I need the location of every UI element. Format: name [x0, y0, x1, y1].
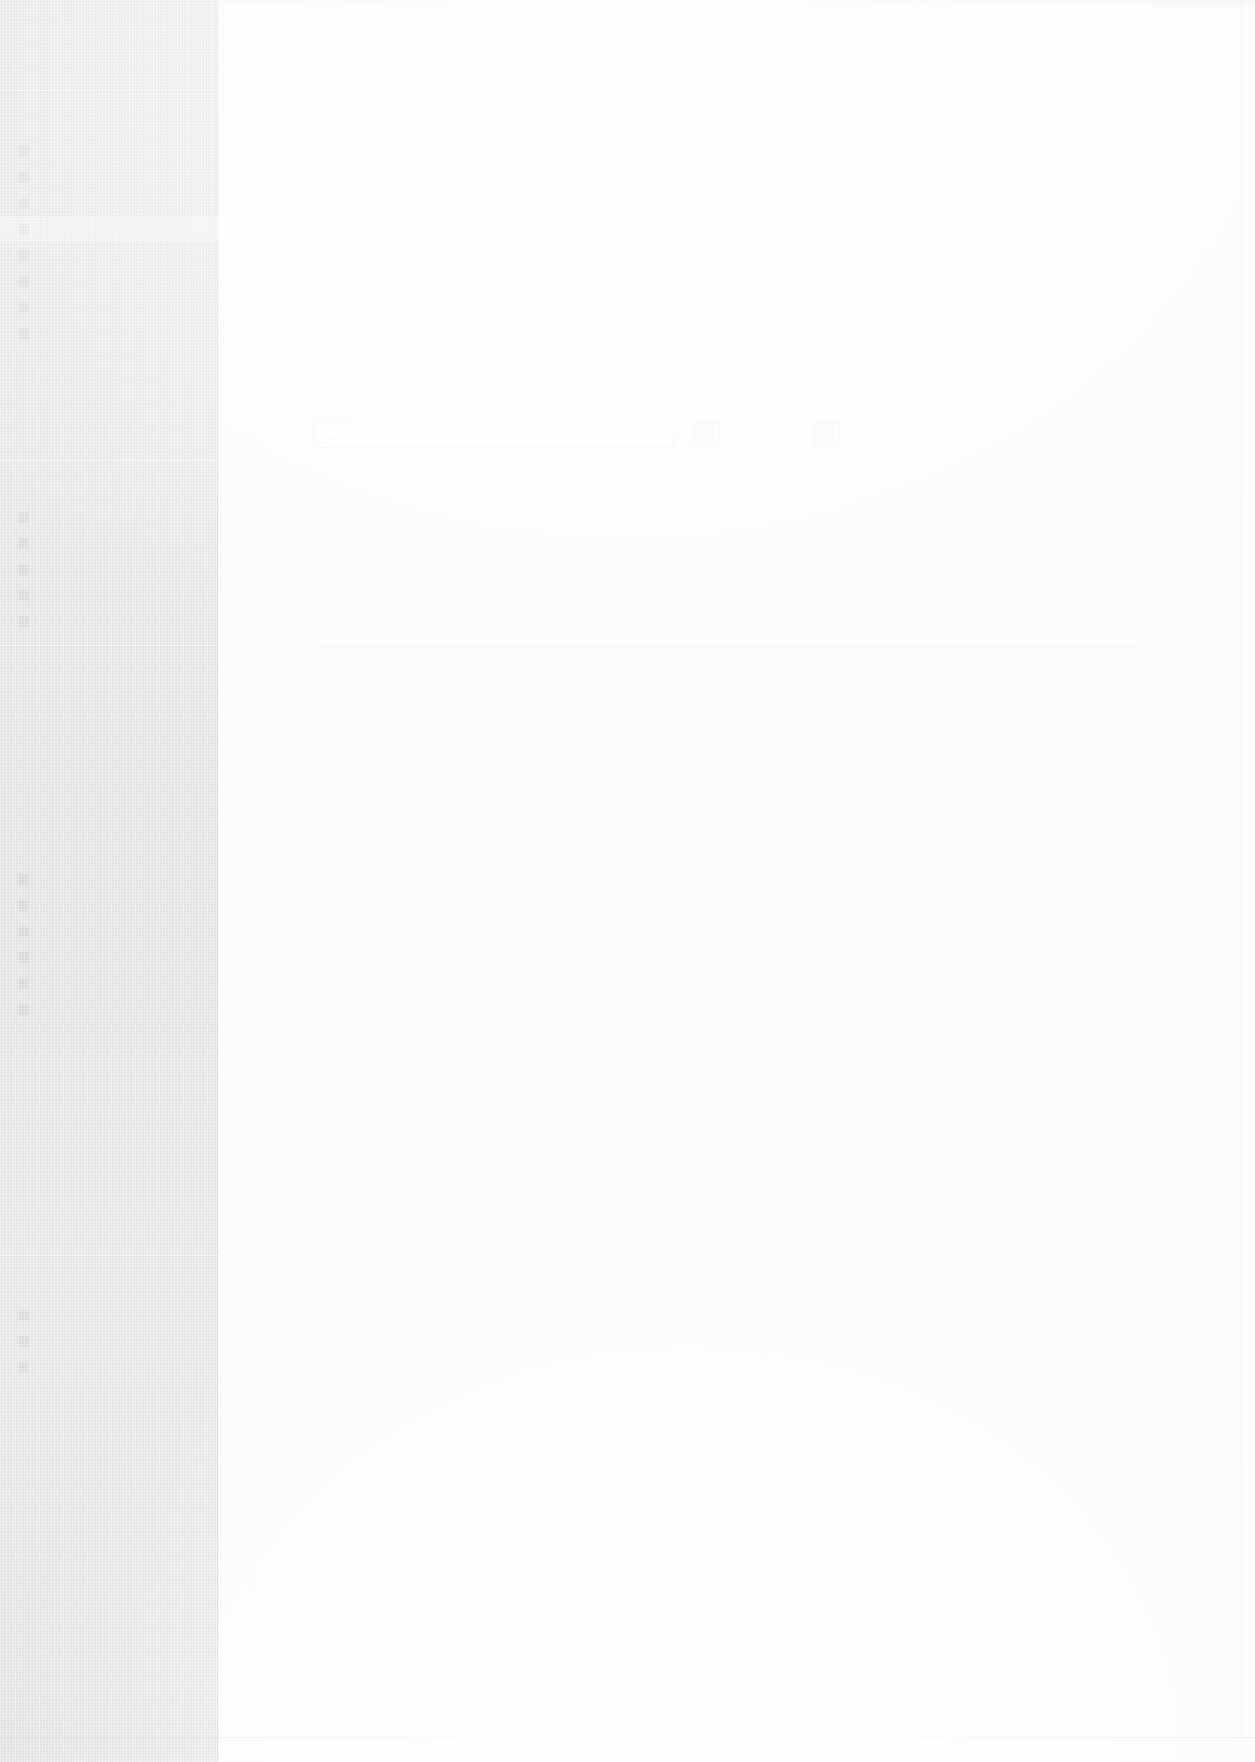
- secondary-action-button[interactable]: [814, 421, 840, 447]
- square-icon: [18, 198, 29, 209]
- sidebar: [0, 0, 218, 1762]
- sidebar-item-tertiary-4[interactable]: [0, 944, 218, 970]
- square-icon: [18, 276, 29, 287]
- table-row[interactable]: [314, 842, 1135, 868]
- section-divider: [314, 646, 1135, 647]
- square-icon: [18, 1336, 29, 1347]
- sidebar-item-primary-1[interactable]: [0, 138, 218, 164]
- square-icon: [18, 1362, 29, 1373]
- sidebar-item-tertiary-3[interactable]: [0, 918, 218, 944]
- sidebar-item-primary-3[interactable]: [0, 190, 218, 216]
- sidebar-item-primary-2[interactable]: [0, 164, 218, 190]
- square-icon: [18, 328, 29, 339]
- table-header-row: [314, 660, 1135, 686]
- square-icon: [18, 952, 29, 963]
- square-icon: [18, 874, 29, 885]
- sidebar-divider-2: [0, 460, 218, 461]
- table-row[interactable]: [314, 816, 1135, 842]
- sidebar-section-secondary: [0, 478, 218, 634]
- page-edge-right: [1241, 0, 1242, 1740]
- sidebar-item-tertiary-2[interactable]: [0, 892, 218, 918]
- square-icon: [18, 926, 29, 937]
- sidebar-section-header-tertiary: [0, 840, 218, 866]
- primary-action-button[interactable]: [694, 421, 720, 447]
- sidebar-item-secondary-2[interactable]: [0, 530, 218, 556]
- sidebar-item-primary-5[interactable]: [0, 242, 218, 268]
- table-row[interactable]: [314, 868, 1135, 894]
- sidebar-item-footer-1[interactable]: [0, 1302, 218, 1328]
- square-icon: [18, 538, 29, 549]
- sidebar-item-footer-3[interactable]: [0, 1354, 218, 1380]
- sidebar-item-secondary-5[interactable]: [0, 608, 218, 634]
- square-icon: [18, 564, 29, 575]
- square-icon: [18, 172, 29, 183]
- main-content: [218, 0, 1255, 1762]
- square-icon: [18, 512, 29, 523]
- square-icon: [18, 146, 29, 157]
- application-window: [0, 0, 1255, 1762]
- sidebar-section-header-primary: [0, 112, 218, 138]
- sidebar-section-primary: [0, 112, 218, 346]
- sidebar-section-header-secondary: [0, 478, 218, 504]
- data-table: [314, 660, 1135, 894]
- square-icon: [18, 302, 29, 313]
- square-icon: [18, 616, 29, 627]
- sidebar-item-secondary-1[interactable]: [0, 504, 218, 530]
- square-icon: [18, 1004, 29, 1015]
- sidebar-item-primary-4[interactable]: [0, 216, 218, 242]
- sidebar-item-footer-2[interactable]: [0, 1328, 218, 1354]
- sidebar-divider-4: [0, 1255, 218, 1256]
- square-icon: [18, 978, 29, 989]
- sidebar-item-secondary-3[interactable]: [0, 556, 218, 582]
- sidebar-section-tertiary: [0, 840, 218, 1022]
- sidebar-brand[interactable]: [0, 22, 218, 48]
- sidebar-divider-3: [0, 645, 218, 646]
- sidebar-item-tertiary-6[interactable]: [0, 996, 218, 1022]
- sidebar-item-tertiary-1[interactable]: [0, 866, 218, 892]
- sidebar-section-footer: [0, 1276, 218, 1380]
- sidebar-item-primary-6[interactable]: [0, 268, 218, 294]
- search-icon: [325, 428, 337, 440]
- search-input[interactable]: [314, 420, 674, 448]
- sidebar-item-secondary-4[interactable]: [0, 582, 218, 608]
- sidebar-item-tertiary-5[interactable]: [0, 970, 218, 996]
- table-row[interactable]: [314, 712, 1135, 738]
- square-icon: [18, 224, 29, 235]
- square-icon: [18, 1310, 29, 1321]
- table-row[interactable]: [314, 790, 1135, 816]
- table-row[interactable]: [314, 738, 1135, 764]
- page-heading-block: [308, 128, 1135, 134]
- sidebar-divider-1: [0, 90, 218, 91]
- table-row[interactable]: [314, 764, 1135, 790]
- square-icon: [18, 900, 29, 911]
- sidebar-item-primary-8[interactable]: [0, 320, 218, 346]
- content-topbar: [218, 0, 1255, 9]
- square-icon: [18, 250, 29, 261]
- page-edge-bottom: [0, 1737, 1255, 1738]
- sidebar-section-header-footer: [0, 1276, 218, 1302]
- table-row[interactable]: [314, 686, 1135, 712]
- sidebar-item-primary-7[interactable]: [0, 294, 218, 320]
- square-icon: [18, 590, 29, 601]
